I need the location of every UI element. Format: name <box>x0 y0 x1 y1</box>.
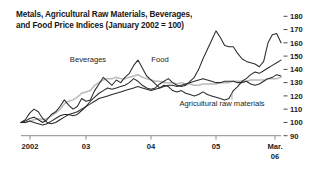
series-line-beverages <box>21 60 281 122</box>
annotation-agricultural-raw-materials: Agricultural raw materials <box>179 99 264 108</box>
y-tick-label-150: 150 <box>290 52 303 61</box>
x-tick-label-3: 05 <box>212 142 221 151</box>
y-tick-label-100: 100 <box>290 118 303 127</box>
chart-title-line2: and Food Price Indices (January 2002 = 1… <box>16 21 184 30</box>
y-axis-tick-labels: 90100110120130140150160170180 <box>290 12 303 140</box>
chart-canvas: Metals, Agricultural Raw Materials, Beve… <box>0 0 315 171</box>
x-tick-label-last-second-line: 06 <box>271 152 279 161</box>
annotation-beverages: Beverages <box>70 55 107 64</box>
y-tick-label-170: 170 <box>290 25 303 34</box>
chart-title-line1: Metals, Agricultural Raw Materials, Beve… <box>16 10 192 19</box>
y-tick-label-110: 110 <box>290 105 302 114</box>
y-axis-ticks <box>284 16 288 135</box>
x-tick-label-2: 04 <box>147 142 156 151</box>
y-tick-label-130: 130 <box>290 78 303 87</box>
x-tick-label-0: 2002 <box>22 142 39 151</box>
y-tick-label-90: 90 <box>290 132 298 141</box>
annotation-food: Food <box>151 55 168 64</box>
y-tick-label-120: 120 <box>290 92 303 101</box>
y-tick-label-160: 160 <box>290 39 303 48</box>
y-tick-label-180: 180 <box>290 12 303 21</box>
y-tick-label-140: 140 <box>290 65 303 74</box>
x-tick-label-4: Mar. <box>267 142 282 151</box>
price-indices-chart: Metals, Agricultural Raw Materials, Beve… <box>0 0 315 171</box>
x-axis-ticks <box>30 136 275 140</box>
x-axis-tick-labels: 2002030405Mar.06 <box>22 142 283 161</box>
x-tick-label-1: 03 <box>82 142 90 151</box>
plot-area <box>21 31 281 125</box>
